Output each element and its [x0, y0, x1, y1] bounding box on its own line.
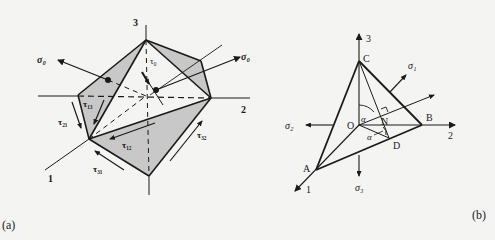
point-A-label: A: [303, 163, 311, 174]
sigma1-arrow: [390, 75, 406, 92]
sigma0-right-label: σ₀: [241, 51, 250, 62]
alpha-lower-label: α: [367, 132, 372, 142]
right-angle-mark: [381, 107, 388, 112]
axis-1-b: [295, 125, 359, 191]
axis-2-label-b: 2: [448, 130, 453, 141]
panel-b-tetrahedron-diagram: 3 2 1 C B A O N D α α σ₁ σ₂ σ₃: [285, 33, 455, 195]
point-C-label: C: [363, 53, 370, 64]
panel-a-octahedral-diagram: 3 2 1 σ₀ σ₀ τ₀ τ₁₃ τ₂₁ τ₁₂ τ₃₁ τ₃₂: [37, 17, 250, 195]
tau21-label: τ₂₁: [58, 117, 68, 127]
alpha-upper-label: α: [361, 114, 366, 124]
tau13-label: τ₁₃: [83, 99, 93, 109]
tau31-label: τ₃₁: [93, 164, 103, 174]
tau21-arrow: [72, 102, 81, 128]
sigma0-left-normal: [58, 60, 108, 80]
axis-2-label-a: 2: [241, 104, 246, 115]
tau0-arrow: [142, 72, 149, 84]
point-D-label: D: [393, 140, 400, 151]
tau12-label: τ₁₂: [122, 140, 132, 150]
tau32-label: τ₃₂: [197, 130, 207, 140]
normal-point-left: [105, 77, 111, 83]
panel-a-caption: (a): [2, 218, 15, 233]
alpha-arc-upper: [359, 105, 374, 112]
sigma0-left-label: σ₀: [37, 54, 46, 65]
sigma1-label: σ₁: [408, 60, 416, 71]
point-N-label: N: [381, 116, 388, 127]
sigma3-label: σ₃: [355, 182, 364, 193]
axis-3-label-a: 3: [133, 17, 138, 28]
diagram-canvas: 3 2 1 σ₀ σ₀ τ₀ τ₁₃ τ₂₁ τ₁₂ τ₃₁ τ₃₂: [0, 0, 495, 240]
tau0-label: τ₀: [150, 56, 157, 66]
axis-3-label-b: 3: [366, 33, 371, 44]
axis-1-line-a: [45, 139, 89, 170]
point-B-label: B: [426, 112, 433, 123]
shaded-face-bottom: [89, 98, 211, 176]
axis-1-label-b: 1: [306, 184, 311, 195]
axis-1-label-a: 1: [48, 173, 53, 184]
point-O-label: O: [347, 120, 354, 131]
sigma2-label: σ₂: [285, 120, 294, 131]
panel-b-caption: (b): [472, 208, 486, 223]
